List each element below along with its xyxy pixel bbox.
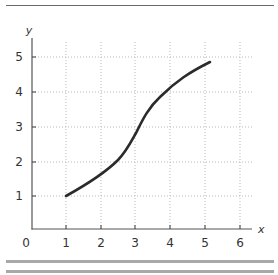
y-tick-label: 3 (15, 120, 23, 134)
x-tick-label: 2 (97, 236, 105, 250)
x-tick-label: 6 (236, 236, 244, 250)
bottom-rule-lower (6, 270, 274, 273)
y-tick-label: 4 (15, 85, 23, 99)
bottom-rule-upper (6, 260, 274, 263)
y-tick-label: 2 (15, 155, 23, 169)
y-axis-title: y (25, 24, 33, 37)
origin-label: 0 (22, 236, 30, 250)
x-tick-label: 1 (62, 236, 70, 250)
x-axis-title: x (257, 223, 265, 236)
gridlines (32, 42, 252, 229)
x-tick-label: 3 (131, 236, 139, 250)
axes (32, 38, 253, 230)
x-tick-label: 4 (166, 236, 174, 250)
y-tick-label: 5 (15, 50, 23, 64)
data-curve (66, 62, 210, 196)
x-tick-label: 5 (201, 236, 209, 250)
y-tick-label: 1 (15, 189, 23, 203)
line-chart: y x 1 2 3 4 5 0 1 2 3 4 5 6 (0, 0, 278, 275)
